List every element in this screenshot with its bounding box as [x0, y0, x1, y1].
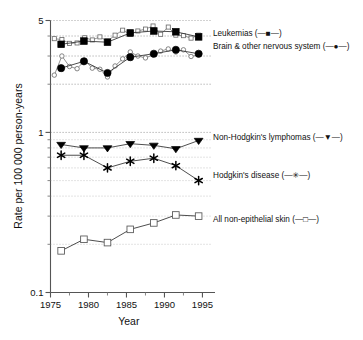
marker-open-square — [113, 33, 117, 37]
marker-filled-square — [195, 34, 202, 41]
marker-filled-square — [173, 29, 180, 36]
series-non-hodgkin-s-lymphomas — [57, 138, 203, 152]
marker-open-circle — [189, 54, 193, 58]
y-tick-label: 1 — [38, 127, 43, 138]
marker-open-square — [104, 239, 111, 246]
marker-filled-square — [151, 28, 158, 35]
y-axis-title: Rate per 100 000 person-years — [12, 83, 24, 228]
marker-open-circle — [52, 73, 56, 77]
x-tick-label: 1975 — [40, 299, 61, 310]
grid-lines — [51, 21, 213, 293]
data-series — [52, 24, 203, 254]
marker-filled-circle — [58, 65, 65, 72]
marker-filled-square — [104, 39, 111, 46]
marker-filled-circle — [80, 58, 87, 65]
marker-open-circle — [75, 66, 79, 70]
chart-figure: 510.119751980198519901995 YearRate per 1… — [0, 0, 363, 340]
marker-filled-circle — [104, 69, 111, 76]
marker-open-circle — [143, 56, 147, 60]
marker-filled-square — [58, 41, 65, 48]
marker-open-square — [166, 25, 170, 29]
marker-open-square — [159, 32, 163, 36]
marker-filled-triangle — [103, 146, 112, 152]
marker-open-square — [189, 36, 193, 40]
legend-entry-nhl: Non-Hodgkin's lymphomas (—▼—) — [213, 133, 343, 142]
x-tick-label: 1985 — [116, 299, 137, 310]
marker-filled-circle — [150, 50, 157, 57]
x-tick-label: 1995 — [192, 299, 213, 310]
series-brain-other-nervous-system — [52, 46, 202, 79]
marker-open-square — [195, 213, 202, 220]
legend-entry-skin: All non-epithelial skin (—□—) — [213, 215, 319, 224]
chart-legend: Leukemias (—■—)Brain & other nervous sys… — [213, 29, 350, 224]
marker-filled-circle — [195, 50, 202, 57]
marker-open-square — [58, 248, 65, 255]
marker-open-square — [121, 28, 125, 32]
x-tick-label: 1990 — [154, 299, 175, 310]
marker-open-square — [151, 220, 158, 227]
legend-entry-brain: Brain & other nervous system (—●—) — [213, 42, 350, 51]
marker-filled-square — [127, 30, 134, 37]
marker-open-circle — [60, 54, 64, 58]
series-hodgkin-s-disease — [58, 151, 203, 185]
marker-open-square — [173, 212, 180, 219]
series-all-non-epithelial-skin — [58, 212, 202, 254]
marker-open-square — [127, 226, 134, 233]
x-axis-title: Year — [118, 315, 140, 327]
legend-entry-hodgkins: Hodgkin's disease (—✳—) — [213, 171, 310, 180]
marker-open-square — [81, 236, 88, 243]
marker-open-square — [98, 35, 102, 39]
marker-filled-square — [81, 38, 88, 45]
y-tick-label: 0.1 — [30, 287, 43, 298]
y-tick-label: 5 — [38, 15, 43, 26]
legend-entry-leukemias: Leukemias (—■—) — [213, 29, 282, 38]
incidence-rate-line-chart: 510.119751980198519901995 YearRate per 1… — [0, 0, 363, 340]
marker-filled-triangle — [171, 147, 180, 153]
marker-open-square — [143, 27, 147, 31]
marker-open-square — [52, 37, 56, 41]
marker-filled-circle — [172, 46, 179, 53]
marker-filled-circle — [127, 54, 134, 61]
marker-open-circle — [120, 57, 124, 61]
x-tick-label: 1980 — [78, 299, 99, 310]
